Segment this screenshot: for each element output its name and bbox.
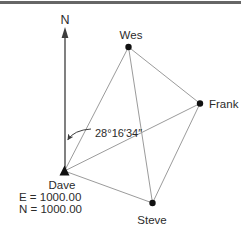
- dave-label: Dave: [49, 179, 76, 191]
- edge-wes-frank: [129, 47, 201, 104]
- dave-easting-label: E = 1000.00: [19, 191, 81, 203]
- angle-arc: [68, 129, 91, 140]
- network-edges: [65, 47, 201, 203]
- edge-dave-wes: [65, 47, 129, 171]
- frank-point: [197, 100, 203, 106]
- north-arrow-head: [62, 27, 69, 38]
- angle-label: 28°16′34″: [95, 127, 142, 139]
- north-arrow: [62, 27, 69, 171]
- steve-point: [149, 200, 155, 206]
- steve-label: Steve: [137, 214, 166, 226]
- wes-point: [125, 44, 131, 50]
- dave-northing-label: N = 1000.00: [19, 203, 82, 215]
- wes-label: Wes: [120, 29, 143, 41]
- edge-frank-steve: [153, 104, 201, 204]
- dave-point: [60, 166, 70, 176]
- north-label: N: [60, 13, 69, 27]
- diagram-canvas: N 28°16′34″ Wes Frank Steve Dave E = 100…: [0, 0, 241, 232]
- survey-network-diagram: N 28°16′34″ Wes Frank Steve Dave E = 100…: [0, 0, 241, 232]
- edge-wes-steve: [129, 47, 153, 203]
- frank-label: Frank: [209, 98, 239, 110]
- top-border: [0, 1, 241, 4]
